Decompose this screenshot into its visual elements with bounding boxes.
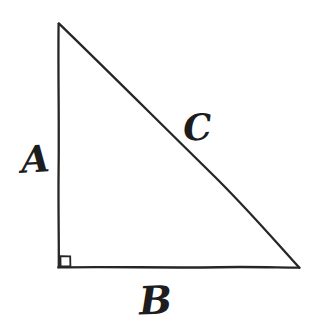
side-label-b: B bbox=[138, 280, 172, 320]
side-label-a: A bbox=[20, 140, 51, 178]
horizontal-leg-line bbox=[58, 267, 299, 268]
side-label-c: C bbox=[182, 108, 213, 146]
triangle-figure: A B C bbox=[0, 0, 319, 336]
hypotenuse-line bbox=[59, 23, 300, 267]
right-angle-marker bbox=[60, 256, 70, 266]
